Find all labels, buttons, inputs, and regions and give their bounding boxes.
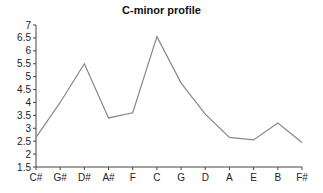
x-tick-label: F# xyxy=(296,172,308,183)
y-tick-label: 6.5 xyxy=(17,32,31,43)
y-tick-label: 1.5 xyxy=(17,162,31,173)
y-tick-label: 6 xyxy=(25,45,31,56)
x-tick-label: E xyxy=(250,172,257,183)
x-tick-label: C xyxy=(153,172,160,183)
y-tick-label: 2 xyxy=(25,149,31,160)
line-plot: 1.522.533.544.555.566.57C#G#D#A#FCGDAEBF… xyxy=(0,0,323,193)
x-tick-label: A# xyxy=(102,172,115,183)
x-tick-label: G# xyxy=(54,172,68,183)
y-tick-label: 5 xyxy=(25,71,31,82)
data-line xyxy=(36,37,302,143)
chart: C-minor profile 1.522.533.544.555.566.57… xyxy=(0,0,323,193)
y-tick-label: 7 xyxy=(25,20,31,31)
y-tick-label: 2.5 xyxy=(17,136,31,147)
x-tick-label: C# xyxy=(30,172,43,183)
x-tick-label: G xyxy=(177,172,185,183)
x-tick-label: D# xyxy=(78,172,91,183)
x-tick-label: D xyxy=(202,172,209,183)
y-tick-label: 3.5 xyxy=(17,110,31,121)
x-tick-label: A xyxy=(226,172,233,183)
y-tick-label: 4 xyxy=(25,97,31,108)
x-tick-label: B xyxy=(274,172,281,183)
y-tick-label: 4.5 xyxy=(17,84,31,95)
y-tick-label: 3 xyxy=(25,123,31,134)
y-tick-label: 5.5 xyxy=(17,58,31,69)
x-tick-label: F xyxy=(130,172,136,183)
